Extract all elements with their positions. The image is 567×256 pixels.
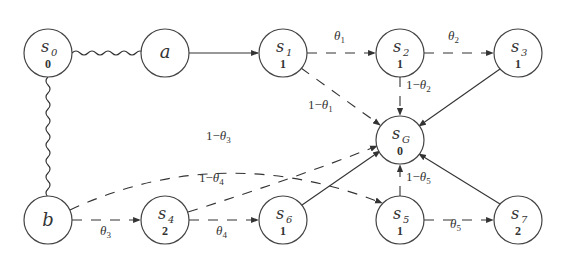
node-s3-value: 1	[515, 57, 521, 71]
node-s1-name: s	[276, 37, 284, 56]
node-s3-name: s	[511, 37, 519, 56]
node-s2-name: s	[393, 37, 401, 56]
edge-s0-b	[46, 77, 50, 204]
node-sG: s G 0	[376, 116, 424, 164]
node-s5: s 5 1	[376, 196, 424, 244]
node-s6: s 6 1	[259, 196, 307, 244]
node-s4-name: s	[158, 204, 166, 223]
edge-s7-sG	[419, 154, 500, 204]
node-s5-sub: 5	[403, 214, 409, 225]
node-s6-name: s	[276, 204, 284, 223]
node-s7: s 7 2	[494, 196, 542, 244]
node-s4-value: 2	[162, 224, 168, 238]
svg-text:1−θ5: 1−θ5	[406, 169, 431, 186]
node-s5-name: s	[393, 204, 401, 223]
svg-text:θ5: θ5	[450, 216, 461, 233]
label-theta5: θ5	[450, 216, 461, 233]
node-s4-sub: 4	[167, 214, 174, 225]
edge-s0-a	[72, 51, 151, 55]
label-theta3: θ3	[100, 223, 111, 240]
label-theta2: θ2	[448, 28, 459, 45]
svg-text:1−θ3: 1−θ3	[206, 128, 231, 145]
edge-s6-sG	[302, 151, 380, 205]
node-s2: s 2 1	[376, 29, 424, 77]
node-sG-sub: G	[402, 134, 410, 145]
node-s1-value: 1	[280, 57, 286, 71]
edge-s3-sG	[419, 69, 500, 126]
label-theta4: θ4	[216, 223, 227, 240]
svg-text:1−θ2: 1−θ2	[406, 77, 431, 94]
node-b: b	[24, 196, 72, 244]
node-sG-name: s	[392, 124, 400, 143]
label-one-minus-theta1: 1−θ1	[308, 97, 333, 114]
node-s6-sub: 6	[286, 214, 293, 225]
label-theta1: θ1	[334, 28, 345, 45]
node-a-name: a	[160, 41, 171, 62]
node-s0-sub: 0	[51, 47, 58, 58]
node-s3-sub: 3	[521, 47, 527, 58]
node-s0-value: 0	[45, 57, 51, 71]
node-b-name: b	[42, 209, 54, 230]
label-one-minus-theta4: 1−θ4	[199, 170, 224, 187]
node-s0: s 0 0	[24, 29, 72, 77]
node-sG-value: 0	[397, 144, 403, 158]
label-one-minus-theta3: 1−θ3	[206, 128, 231, 145]
node-s2-sub: 2	[402, 47, 409, 58]
svg-text:θ4: θ4	[216, 223, 227, 240]
label-one-minus-theta2: 1−θ2	[406, 77, 431, 94]
node-s5-value: 1	[397, 224, 403, 238]
node-s1: s 1 1	[259, 29, 307, 77]
node-s7-sub: 7	[521, 214, 528, 225]
label-one-minus-theta5: 1−θ5	[406, 169, 431, 186]
svg-text:1−θ1: 1−θ1	[308, 97, 333, 114]
node-s7-name: s	[511, 204, 519, 223]
svg-text:θ1: θ1	[334, 28, 345, 45]
node-s4: s 4 2	[141, 196, 189, 244]
node-s3: s 3 1	[494, 29, 542, 77]
svg-text:θ2: θ2	[448, 28, 459, 45]
edge-b-s5	[70, 173, 382, 210]
svg-text:θ3: θ3	[100, 223, 111, 240]
mdp-diagram: s 0 0 a s 1 1 s 2 1 s 3 1 s G 0 b s 4 2	[0, 0, 567, 256]
node-a: a	[141, 29, 189, 77]
node-s1-sub: 1	[286, 47, 292, 58]
node-s7-value: 2	[515, 224, 521, 238]
node-s6-value: 1	[280, 224, 286, 238]
svg-text:1−θ4: 1−θ4	[199, 170, 224, 187]
node-s0-name: s	[41, 37, 49, 56]
node-s2-value: 1	[397, 57, 403, 71]
